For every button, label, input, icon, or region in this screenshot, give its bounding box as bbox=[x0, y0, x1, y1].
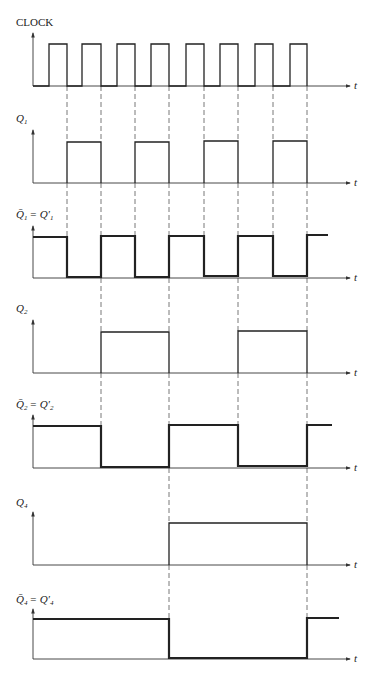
waveform-clock bbox=[33, 44, 307, 86]
signal-q4bar: tQ̄4= Q′4 bbox=[16, 593, 358, 664]
time-axis-label: t bbox=[354, 176, 358, 188]
signal-label: Q2 bbox=[16, 302, 28, 316]
dashed-guides bbox=[67, 86, 307, 618]
signal-label: Q̄2= Q′2 bbox=[16, 398, 54, 412]
time-axis-label: t bbox=[354, 558, 358, 570]
signal-label: Q1 bbox=[16, 112, 27, 126]
waveform-q1 bbox=[67, 141, 307, 183]
signal-label: Q4 bbox=[16, 496, 28, 510]
time-axis-label: t bbox=[354, 652, 358, 664]
signal-q1: tQ1 bbox=[16, 112, 358, 188]
signal-q4: tQ4 bbox=[16, 496, 358, 570]
time-axis-label: t bbox=[354, 79, 358, 91]
waveform-q4 bbox=[169, 523, 307, 565]
timing-diagram: tCLOCKtQ1tQ̄1= Q′1tQ2tQ̄2= Q′2tQ4tQ̄4= Q… bbox=[0, 0, 377, 674]
time-axis-label: t bbox=[354, 271, 358, 283]
signal-label: Q̄1= Q′1 bbox=[16, 208, 53, 222]
signal-label: CLOCK bbox=[16, 16, 53, 28]
signal-label: Q̄4= Q′4 bbox=[16, 593, 54, 607]
time-axis-label: t bbox=[354, 461, 358, 473]
waveform-q1bar bbox=[33, 235, 328, 277]
waveform-q2 bbox=[101, 331, 307, 373]
waveform-q4bar bbox=[33, 618, 339, 658]
waveform-q2bar bbox=[33, 425, 332, 467]
signal-clock: tCLOCK bbox=[16, 16, 358, 91]
time-axis-label: t bbox=[354, 366, 358, 378]
